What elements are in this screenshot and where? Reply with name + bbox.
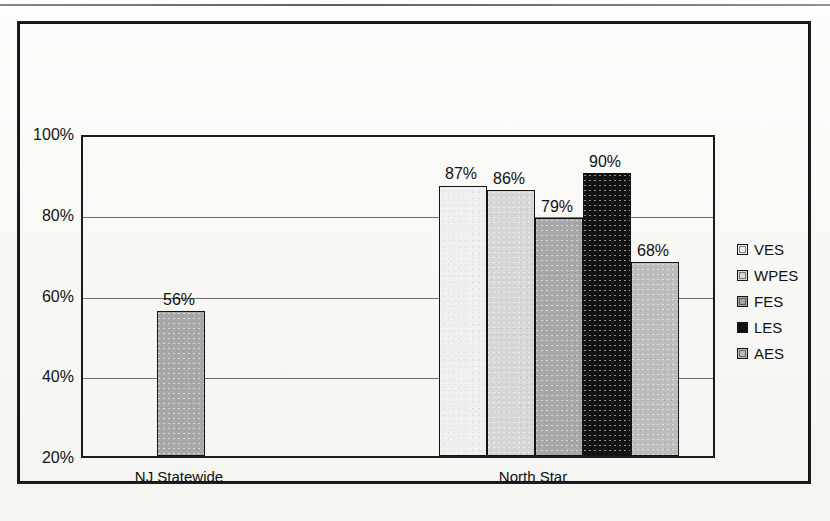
category-label: North Star [499, 468, 567, 485]
legend-swatch-icon [737, 244, 748, 255]
bar-value-label: 87% [445, 165, 477, 183]
bar-value-label: 90% [589, 153, 621, 171]
bar-texture [440, 187, 486, 456]
legend-item-wpes[interactable]: WPES [737, 264, 815, 286]
bar-chart: 100%80%60%40%20% 56%87%86%79%90%68% NJ S… [0, 0, 830, 521]
bar-ves [439, 186, 487, 457]
y-axis-tick-label: 20% [42, 449, 74, 467]
legend-label: FES [754, 294, 783, 309]
bar-texture [158, 312, 204, 455]
y-axis-tick-labels: 100%80%60%40%20% [8, 0, 74, 521]
legend-swatch-icon [737, 296, 748, 307]
bar-texture [632, 263, 678, 455]
y-axis-tick-label: 60% [42, 288, 74, 306]
legend-swatch-icon [737, 270, 748, 281]
bar-texture [536, 219, 582, 455]
bar-value-label: 68% [637, 242, 669, 260]
legend-item-ves[interactable]: VES [737, 238, 815, 260]
bar-value-label: 86% [493, 170, 525, 188]
legend-label: LES [754, 320, 782, 335]
bar-value-label: 79% [541, 198, 573, 216]
legend-label: WPES [754, 268, 798, 283]
legend-item-les[interactable]: LES [737, 316, 815, 338]
bar-texture [584, 174, 630, 455]
legend-item-fes[interactable]: FES [737, 290, 815, 312]
bar-value-label: 56% [163, 291, 195, 309]
y-axis-tick-label: 100% [33, 126, 74, 144]
legend-swatch-icon [737, 322, 748, 333]
y-axis-tick-label: 80% [42, 207, 74, 225]
legend-label: VES [754, 242, 784, 257]
bar-les [583, 173, 631, 456]
legend-item-aes[interactable]: AES [737, 342, 815, 364]
y-axis-tick-label: 40% [42, 368, 74, 386]
legend-label: AES [754, 346, 784, 361]
chart-legend: VESWPESFESLESAES [737, 238, 815, 368]
bar-aes [631, 262, 679, 456]
category-label: NJ Statewide [135, 468, 223, 485]
bar-fes [157, 311, 205, 456]
bar-wpes [487, 190, 535, 456]
bar-fes [535, 218, 583, 456]
bar-texture [488, 191, 534, 455]
legend-swatch-icon [737, 348, 748, 359]
